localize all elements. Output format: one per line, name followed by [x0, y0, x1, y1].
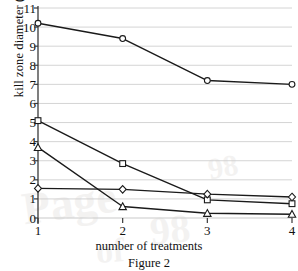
y-tick-label: 7 [10, 78, 36, 91]
x-tick-label: 2 [111, 224, 135, 237]
x-tick-label: 1 [26, 224, 50, 237]
x-axis-label: number of treatments [0, 239, 298, 254]
triangle-series [34, 144, 295, 218]
y-tick-label: 8 [10, 59, 36, 72]
watermark-number-2: 98 [205, 148, 240, 187]
y-tick-label: 4 [10, 135, 36, 148]
y-tick-label: 10 [10, 21, 36, 34]
square-series [35, 118, 295, 207]
diamond-series [35, 185, 296, 201]
y-tick-label: 1 [10, 192, 36, 205]
y-tick-label: 5 [10, 116, 36, 129]
x-tick-label: 3 [195, 224, 219, 237]
figure-caption: Figure 2 [0, 256, 298, 271]
y-tick-label: 2 [10, 173, 36, 186]
x-tick-label: 4 [280, 224, 298, 237]
y-tick-label: 9 [10, 40, 36, 53]
y-tick-label: 0 [10, 212, 36, 225]
circle-series [35, 20, 295, 87]
y-tick-label: 3 [10, 154, 36, 167]
y-tick-label: 6 [10, 97, 36, 110]
figure-2-chart: Page 98 of 98 kill zone diameter (mm) 01… [0, 0, 298, 271]
y-tick-label: 11 [10, 2, 36, 15]
